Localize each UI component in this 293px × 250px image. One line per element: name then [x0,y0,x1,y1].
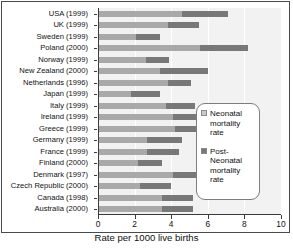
x-axis-tick-label: 6 [205,219,210,229]
y-axis-label: France (1999) [40,148,88,156]
x-axis-line [98,214,281,215]
y-axis-label: Norway (1999) [38,56,88,64]
bar-segment-neonatal [98,126,175,132]
bar-row [98,68,281,74]
legend-label-post-neonatal: Post-Neonatal mortality rate [210,147,255,185]
bar-segment-neonatal [98,206,162,212]
bar-segment-neonatal [98,68,160,74]
bar-segment-neonatal [98,22,168,28]
bar-segment-neonatal [98,45,200,51]
bar-segment-post-neonatal [131,91,160,97]
bar-segment-post-neonatal [136,34,160,40]
y-axis-label: Ireland (1999) [41,113,88,121]
bar-segment-post-neonatal [147,137,182,143]
y-axis-tick [94,209,97,210]
bar-segment-neonatal [98,11,182,17]
y-axis-tick [94,71,97,72]
y-axis-tick [94,25,97,26]
bar-segment-neonatal [98,195,162,201]
y-axis-label: Denmark (1997) [33,171,88,179]
x-axis-tick-label: 8 [242,219,247,229]
y-axis-label: USA (1999) [49,10,88,18]
bar-segment-post-neonatal [162,195,193,201]
bar-row [98,57,281,63]
bar-row [98,34,281,40]
y-axis-tick [94,152,97,153]
y-axis-tick [94,48,97,49]
bar-segment-post-neonatal [138,160,162,166]
bar-row [98,11,281,17]
y-axis-tick [94,37,97,38]
bar-segment-neonatal [98,160,138,166]
legend-entry-neonatal: Neonatal mortality rate [201,109,255,138]
x-axis-title: Rate per 1000 live births [0,232,293,243]
y-axis-label: Netherlands (1996) [23,79,88,87]
y-axis-label: Sweden (1999) [36,33,88,41]
y-axis-tick [94,117,97,118]
bar-segment-neonatal [98,57,146,63]
y-axis-label: Germany (1999) [33,136,88,144]
bar-segment-post-neonatal [160,68,208,74]
y-axis-label: Japan (1999) [43,90,88,98]
legend-entry-post-neonatal: Post-Neonatal mortality rate [201,147,255,185]
bar-segment-neonatal [98,103,166,109]
y-axis-label: Czech Republic (2000) [11,182,88,190]
legend-swatch-post-neonatal-icon [201,148,207,154]
bar-segment-post-neonatal [140,183,171,189]
bar-segment-neonatal [98,149,147,155]
bar-segment-neonatal [98,137,147,143]
legend-label-neonatal: Neonatal mortality rate [210,109,255,138]
y-axis-category-labels: USA (1999)UK (1999)Sweden (1999)Poland (… [0,8,94,215]
y-axis-label: Poland (2000) [40,44,88,52]
y-axis-label: Greece (1999) [39,125,88,133]
mortality-rate-bar-chart: USA (1999)UK (1999)Sweden (1999)Poland (… [0,0,293,250]
bar-segment-post-neonatal [162,206,193,212]
bar-segment-post-neonatal [168,80,192,86]
y-axis-label: UK (1999) [53,21,88,29]
bar-row [98,206,281,212]
y-axis-tick [94,106,97,107]
bar-segment-neonatal [98,91,131,97]
y-axis-tick [94,186,97,187]
bar-segment-neonatal [98,80,168,86]
y-axis-tick [94,175,97,176]
y-axis-tick [94,129,97,130]
bar-row [98,22,281,28]
y-axis-tick [94,60,97,61]
bar-segment-neonatal [98,34,136,40]
bar-segment-post-neonatal [146,57,170,63]
bar-segment-neonatal [98,183,140,189]
y-axis-label: Canada (1998) [37,194,88,202]
x-axis-tick-label: 4 [169,219,174,229]
x-axis-tick-label: 0 [96,219,101,229]
y-axis-tick [94,94,97,95]
y-axis-tick [94,140,97,141]
x-axis-tick-label: 10 [276,219,285,229]
y-axis-tick [94,14,97,15]
y-axis-tick [94,83,97,84]
bar-segment-post-neonatal [147,149,178,155]
y-axis-tick [94,163,97,164]
bar-segment-neonatal [98,172,173,178]
y-axis-line [98,8,99,215]
gridline [281,8,282,215]
bar-segment-neonatal [98,114,173,120]
bar-segment-post-neonatal [166,103,195,109]
legend-swatch-neonatal-icon [201,110,207,116]
y-axis-label: Italy (1999) [50,102,88,110]
bar-segment-post-neonatal [182,11,228,17]
y-axis-label: New Zealand (2000) [19,67,88,75]
chart-legend: Neonatal mortality rate Post-Neonatal mo… [196,103,260,200]
bar-row [98,91,281,97]
bar-row [98,80,281,86]
bar-segment-post-neonatal [168,22,199,28]
x-axis-tick-label: 2 [132,219,137,229]
y-axis-label: Finland (2000) [39,159,88,167]
bar-segment-post-neonatal [200,45,248,51]
y-axis-tick [94,198,97,199]
bar-row [98,45,281,51]
bar-segment-post-neonatal [173,172,197,178]
y-axis-label: Australia (2000) [34,205,88,213]
